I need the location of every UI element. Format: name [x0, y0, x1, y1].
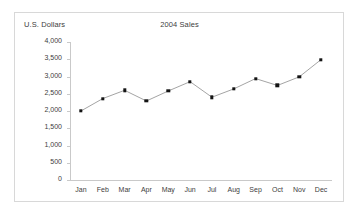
y-axis-tick-label: 0	[58, 175, 62, 182]
data-point-marker	[298, 75, 301, 78]
x-axis-tick-label: Dec	[315, 186, 327, 193]
y-axis-tick-mark	[67, 146, 70, 147]
chart-title: 2004 Sales	[0, 20, 359, 29]
y-axis-tick-label: 3,500	[44, 54, 62, 61]
data-point-marker	[254, 77, 257, 80]
data-point-marker	[188, 80, 191, 83]
y-axis-tick-label: 500	[50, 158, 62, 165]
y-axis-tick-mark	[67, 111, 70, 112]
y-axis-tick-mark	[67, 180, 70, 181]
data-point-marker	[167, 89, 170, 92]
data-point-marker	[101, 97, 104, 100]
y-axis-tick-mark	[67, 94, 70, 95]
data-point-marker	[319, 58, 322, 61]
y-axis-tick-mark	[67, 77, 70, 78]
x-axis-tick-label: May	[162, 186, 175, 193]
y-axis-tick-mark	[67, 128, 70, 129]
chart-page: U.S. Dollars 2004 Sales 4,0003,5003,0002…	[0, 0, 359, 214]
x-axis-tick-label: Apr	[141, 186, 152, 193]
data-point-marker	[79, 109, 82, 112]
chart-frame	[14, 12, 344, 202]
x-axis-tick-label: Nov	[293, 186, 305, 193]
x-axis-tick-label: Aug	[228, 186, 240, 193]
x-axis-line	[70, 180, 332, 181]
x-axis-tick-label: Oct	[272, 186, 283, 193]
y-axis-tick-label: 3,000	[44, 72, 62, 79]
x-axis-tick-label: Sep	[249, 186, 261, 193]
data-point-marker	[232, 87, 235, 90]
y-axis-tick-mark	[67, 163, 70, 164]
y-axis-tick-label: 2,500	[44, 89, 62, 96]
x-axis-tick-label: Jul	[207, 186, 216, 193]
data-point-marker	[123, 89, 126, 92]
data-point-marker	[276, 84, 279, 87]
data-point-marker	[210, 95, 213, 98]
x-axis-tick-label: Jan	[75, 186, 86, 193]
x-axis-tick-label: Jun	[184, 186, 195, 193]
data-point-marker	[145, 99, 148, 102]
y-axis-tick-label: 1,000	[44, 141, 62, 148]
y-axis-line	[70, 42, 71, 181]
y-axis-tick-mark	[67, 59, 70, 60]
y-axis-tick-label: 4,000	[44, 37, 62, 44]
y-axis-tick-label: 2,000	[44, 106, 62, 113]
y-axis-tick-label: 1,500	[44, 123, 62, 130]
x-axis-tick-label: Mar	[119, 186, 131, 193]
x-axis-tick-label: Feb	[97, 186, 109, 193]
y-axis-tick-mark	[67, 42, 70, 43]
